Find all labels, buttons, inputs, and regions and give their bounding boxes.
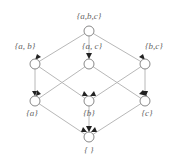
arrow-icon: [90, 91, 96, 96]
node-b: [84, 96, 94, 106]
label-bc: {b,c}: [145, 41, 163, 51]
label-ab: {a, b}: [15, 41, 36, 51]
label-abc: {a,b,c}: [77, 11, 102, 21]
node-ac: [84, 59, 94, 69]
arrow-icon: [81, 127, 87, 132]
hasse-diagram: {a,b,c} {a, b} {a, c} {b,c} {a} {b} {c} …: [0, 0, 176, 166]
edge-abc-ab: [35, 31, 89, 64]
arrow-icon: [86, 126, 92, 132]
arrow-icon: [82, 91, 88, 96]
label-ac: {a, c}: [82, 41, 103, 51]
node-c: [140, 96, 150, 106]
label-a: {a}: [26, 108, 38, 118]
arrow-icon: [36, 90, 41, 96]
node-bc: [140, 59, 150, 69]
edge-c-empty: [89, 101, 145, 137]
arrow-icon: [91, 127, 97, 132]
label-b: {b}: [83, 108, 95, 118]
node-abc: [84, 26, 94, 36]
label-empty: { }: [84, 145, 94, 155]
arrow-icon: [86, 53, 92, 59]
edge-a-empty: [35, 101, 89, 137]
node-ab: [30, 59, 40, 69]
node-empty: [84, 132, 94, 142]
node-a: [30, 96, 40, 106]
label-c: {c}: [141, 108, 153, 118]
